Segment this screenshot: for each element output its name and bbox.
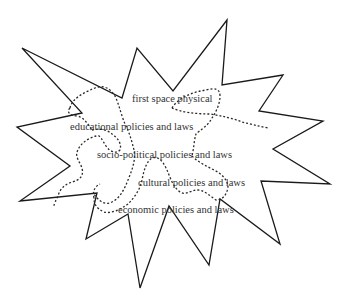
label-economic-policies: economic policies and laws: [118, 205, 234, 216]
label-first-space-physical: first space physical: [132, 94, 212, 105]
label-educational-policies: educational policies and laws: [70, 122, 193, 133]
dotted-region-educational: [70, 87, 135, 204]
label-cultural-policies: cultural policies and laws: [138, 178, 245, 189]
label-socio-political-policies: socio-political policies and laws: [97, 150, 232, 161]
